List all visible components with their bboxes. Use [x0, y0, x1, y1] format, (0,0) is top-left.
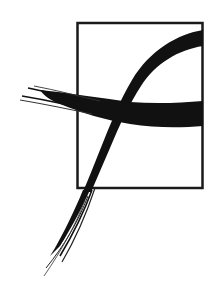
logo-graphic — [0, 0, 219, 285]
brush-f-logo — [0, 0, 219, 285]
f-tail-stroke — [50, 190, 90, 256]
f-tail-bristle-2 — [62, 188, 95, 262]
